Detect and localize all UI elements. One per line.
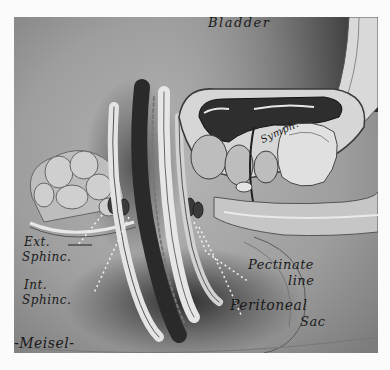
artist-signature: -Meisel- [14,336,75,350]
label-ext-sphinc-line2: Sphinc. [22,251,71,263]
label-bladder: Bladder [208,16,271,29]
label-int-sphinc-line1: Int. [24,279,47,291]
label-peritoneal-line1: Peritoneal [230,298,307,312]
label-peritoneal-line2: Sac [300,315,325,328]
label-pectinate-line1: Pectinate [248,258,314,271]
label-ext-sphinc-line1: Ext. [24,236,50,248]
label-pectinate-line2: line [288,274,314,287]
label-int-sphinc-line2: Sphinc. [22,294,71,306]
